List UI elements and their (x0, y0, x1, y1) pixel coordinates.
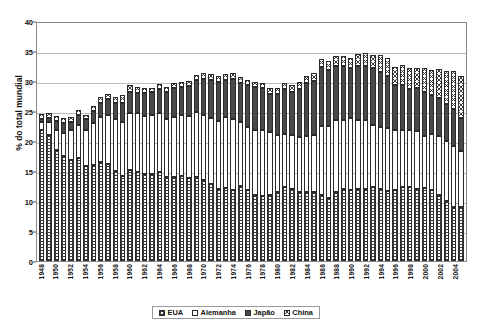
stacked-bar (355, 54, 360, 261)
stacked-bar (208, 74, 213, 261)
bar-segment-eua (157, 172, 162, 261)
bar-segment-eua (98, 162, 103, 261)
stacked-bar (348, 58, 353, 261)
x-tick-cell: 1950 (52, 263, 59, 301)
bar-segment-eua (282, 187, 287, 261)
bar-segment-eua (378, 189, 383, 261)
bar-segment-alemanha (304, 136, 309, 192)
bar-column (428, 23, 435, 261)
stacked-bar (83, 115, 88, 261)
bar-segment-japão (378, 72, 383, 127)
bar-segment-china (127, 85, 132, 92)
bar-segment-alemanha (68, 130, 73, 160)
bar-segment-eua (238, 186, 243, 261)
bar-segment-china (319, 59, 324, 67)
bar-segment-alemanha (91, 123, 96, 165)
bar-segment-eua (370, 187, 375, 261)
stacked-bar (98, 97, 103, 261)
bar-segment-japão (127, 92, 132, 112)
bar-column (303, 23, 310, 261)
bar-segment-china (333, 56, 338, 66)
bar-segment-japão (201, 79, 206, 115)
bar-segment-eua (392, 190, 397, 261)
stacked-bar (341, 56, 346, 261)
x-tick-label: 1996 (392, 264, 399, 279)
stacked-bar (76, 110, 81, 261)
legend-item-china[interactable]: China (284, 309, 313, 316)
x-tick-cell: 2002 (436, 263, 443, 301)
bar-segment-china (429, 70, 434, 96)
y-tick-label: 40 (11, 18, 33, 27)
bar-segment-eua (171, 177, 176, 261)
x-tick-cell: 1962 (140, 263, 147, 301)
bar-segment-japão (149, 92, 154, 115)
x-tick-cell: 1966 (170, 263, 177, 301)
bar-segment-japão (275, 94, 280, 135)
stacked-bar (46, 113, 51, 261)
bar-segment-japão (245, 85, 250, 127)
legend-label: Alemanha (201, 309, 236, 316)
bar-segment-eua (400, 187, 405, 261)
stacked-bar (157, 84, 162, 261)
bar-segment-japão (142, 93, 147, 116)
bar-segment-alemanha (135, 113, 140, 172)
bar-segment-japão (120, 103, 125, 122)
bar-column (288, 23, 295, 261)
bar-segment-china (458, 76, 463, 118)
bar-segment-japão (304, 83, 309, 136)
bar-segment-china (120, 95, 125, 102)
stacked-bar (135, 87, 140, 261)
bar-segment-japão (333, 66, 338, 120)
stacked-bar (319, 59, 324, 261)
bar-column (82, 23, 89, 261)
x-tick-cell (429, 263, 436, 301)
bar-segment-eua (179, 176, 184, 261)
legend-item-alemanha[interactable]: Alemanha (192, 309, 236, 316)
x-tick-cell: 1964 (155, 263, 162, 301)
stacked-bar (414, 68, 419, 261)
stacked-bar (378, 55, 383, 261)
hatch-swatch-icon (284, 310, 290, 316)
bar-segment-alemanha (164, 119, 169, 177)
bar-segment-japão (157, 89, 162, 114)
stacked-bar (171, 83, 176, 261)
x-tick-cell: 1954 (81, 263, 88, 301)
bar-segment-alemanha (414, 131, 419, 189)
bar-segment-eua (297, 192, 302, 261)
legend-label: China (292, 309, 313, 316)
bar-column (251, 23, 258, 261)
bar-segment-eua (260, 196, 265, 261)
x-axis-labels: 1948195019521954195619581960196219641966… (36, 263, 467, 301)
bar-column (193, 23, 200, 261)
bar-segment-alemanha (223, 117, 228, 188)
bar-segment-japão (341, 66, 346, 120)
bar-segment-alemanha (385, 128, 390, 192)
legend-item-japão[interactable]: Japão (245, 309, 275, 316)
y-tick-label: 20 (11, 138, 33, 147)
bar-segment-japão (164, 92, 169, 119)
x-tick-label: 1950 (52, 264, 59, 279)
x-tick-label: 2004 (451, 264, 458, 279)
bar-segment-alemanha (208, 118, 213, 184)
bar-segment-alemanha (275, 135, 280, 192)
x-tick-cell: 1976 (244, 263, 251, 301)
x-tick-cell: 1994 (377, 263, 384, 301)
x-tick-cell (104, 263, 111, 301)
stacked-bar (164, 87, 169, 261)
bar-segment-japão (458, 118, 463, 151)
bar-segment-japão (348, 68, 353, 118)
legend-item-eua[interactable]: EUA (159, 309, 183, 316)
x-tick-cell: 1992 (362, 263, 369, 301)
bar-segment-eua (414, 189, 419, 261)
bar-segment-alemanha (341, 120, 346, 189)
bar-column (185, 23, 192, 261)
bar-segment-alemanha (267, 132, 272, 195)
bars-container (37, 23, 466, 261)
bar-segment-china (355, 54, 360, 66)
x-tick-cell: 1984 (303, 263, 310, 301)
x-tick-label: 1998 (407, 264, 414, 279)
bar-segment-china (451, 71, 456, 109)
stacked-bar (179, 82, 184, 261)
stacked-bar (429, 70, 434, 261)
bar-segment-eua (149, 174, 154, 261)
